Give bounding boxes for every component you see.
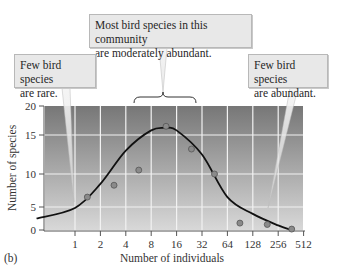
x-tick-label: 4 (123, 238, 129, 250)
x-tick-label: 1 (72, 238, 78, 250)
y-tick-label: 0 (31, 224, 37, 236)
callout-middle: Most bird species in this community are … (89, 14, 252, 48)
data-point (289, 226, 295, 232)
data-point (237, 220, 243, 226)
data-point (211, 171, 217, 177)
x-tick-label: 512 (295, 238, 312, 250)
y-tick-label: 5 (31, 201, 37, 213)
callout-right-line1: Few bird species (254, 58, 322, 86)
callout-left-line1: Few bird species (20, 58, 90, 86)
callout-middle-line2: are moderately abundant. (95, 46, 246, 60)
callout-left: Few bird species are rare. (14, 54, 96, 88)
data-point (136, 167, 142, 173)
data-point (111, 182, 117, 188)
x-axis-title: Number of individuals (120, 252, 225, 264)
callout-right: Few bird species are abundant. (248, 54, 328, 88)
panel-label: (b) (4, 252, 18, 265)
x-tick-label: 16 (171, 238, 183, 250)
callout-middle-line1: Most bird species in this community (95, 18, 246, 46)
x-tick-label: 32 (197, 238, 208, 250)
callout-right-line2: are abundant. (254, 86, 322, 100)
y-tick-label: 15 (25, 129, 37, 141)
data-point (163, 123, 169, 129)
x-tick-label: 256 (270, 238, 287, 250)
y-ticks: 05101520 (25, 100, 44, 236)
x-tick-label: 64 (222, 238, 234, 250)
data-point (188, 146, 194, 152)
y-tick-label: 10 (25, 168, 37, 180)
plot-area (45, 106, 303, 230)
y-tick-label: 20 (25, 100, 37, 112)
callout-left-line2: are rare. (20, 86, 90, 100)
x-tick-label: 8 (148, 238, 154, 250)
data-point (264, 221, 270, 227)
brace (134, 92, 196, 103)
x-ticks: 1248163264128256512 (72, 231, 312, 250)
data-point (84, 194, 90, 200)
x-tick-label: 2 (98, 238, 104, 250)
x-tick-label: 128 (245, 238, 262, 250)
y-axis-title: Number of species (6, 124, 19, 211)
